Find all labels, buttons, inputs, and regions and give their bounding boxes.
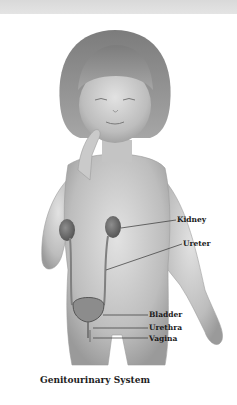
child-illustration [0, 0, 237, 405]
label-urethra: Urethra [149, 324, 182, 332]
right-kidney [105, 216, 121, 238]
label-ureter: Ureter [183, 240, 210, 248]
left-kidney [59, 219, 75, 241]
figure-caption: Genitourinary System [40, 375, 150, 385]
label-kidney: Kidney [177, 216, 206, 224]
label-vagina: Vagina [149, 335, 177, 343]
neck [102, 140, 132, 162]
label-bladder: Bladder [149, 311, 182, 319]
